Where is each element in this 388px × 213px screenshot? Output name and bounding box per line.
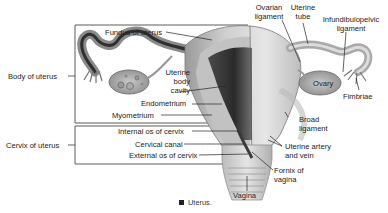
- label-fornix-2: vagina: [274, 175, 296, 184]
- label-endometrium: Endometrium: [141, 99, 186, 108]
- label-body-of-uterus: Body of uterus: [8, 72, 57, 81]
- figure-caption: Uterus.: [179, 198, 212, 207]
- label-cervical-canal: Cervical canal: [135, 140, 183, 149]
- label-broad-ligament-1: Broad: [299, 115, 319, 124]
- label-broad-ligament-2: ligament: [299, 124, 328, 133]
- caption-square-icon: [179, 200, 184, 205]
- label-fundus: Fundus of uterus: [105, 28, 162, 37]
- label-vagina: Vagina: [233, 191, 256, 200]
- label-uterine-body-cavity-1: Uterine: [160, 68, 190, 77]
- label-myometrium: Myometrium: [112, 111, 154, 120]
- label-infundibulopelvic-1: Infundibulopelvic: [318, 15, 384, 24]
- label-uterine-vessels-1: Uterine artery: [285, 142, 331, 151]
- label-ovarian-ligament-2: ligament: [250, 12, 288, 21]
- label-internal-os: Internal os of cervix: [118, 127, 184, 136]
- label-uterine-tube-2: tube: [286, 12, 320, 21]
- label-uterine-body-cavity-2: body: [160, 77, 190, 86]
- caption-text: Uterus.: [188, 198, 212, 207]
- label-external-os: External os of cervix: [129, 151, 197, 160]
- label-infundibulopelvic-2: ligament: [318, 24, 384, 33]
- label-cervix-of-uterus: Cervix of uterus: [6, 141, 59, 150]
- label-uterine-body-cavity-3: cavity: [160, 86, 190, 95]
- label-fornix-1: Fornix of: [274, 166, 304, 175]
- label-uterine-tube-1: Uterine: [286, 3, 320, 12]
- label-ovarian-ligament-1: Ovarian: [250, 3, 288, 12]
- label-uterine-vessels-2: and vein: [285, 151, 314, 160]
- label-ovary: Ovary: [313, 79, 333, 88]
- uterus-diagram: Body of uterus Cervix of uterus Fundus o…: [0, 0, 388, 213]
- label-fimbriae: Fimbriae: [343, 92, 373, 101]
